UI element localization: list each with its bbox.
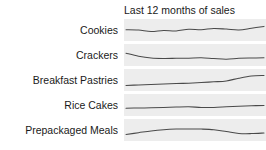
- sparkline-crackers[interactable]: [124, 44, 266, 66]
- row-label-cookies: Cookies: [0, 19, 118, 41]
- table-row: Prepackaged Meals: [0, 119, 266, 141]
- sparkline-table: Last 12 months of sales Cookies Crackers…: [0, 0, 266, 150]
- sparkline-path: [126, 76, 264, 86]
- row-label-breakfast-pastries: Breakfast Pastries: [0, 69, 118, 91]
- sparkline-rice-cakes[interactable]: [124, 94, 266, 116]
- sparkline-cookies[interactable]: [124, 19, 266, 41]
- row-label-prepackaged-meals: Prepackaged Meals: [0, 119, 118, 141]
- sparkline-path: [126, 53, 264, 59]
- sparkline-svg: [124, 69, 266, 91]
- table-row: Cookies: [0, 19, 266, 41]
- sparkline-svg: [124, 44, 266, 66]
- row-label-crackers: Crackers: [0, 44, 118, 66]
- sparkline-prepackaged-meals[interactable]: [124, 119, 266, 141]
- sparkline-breakfast-pastries[interactable]: [124, 69, 266, 91]
- row-label-rice-cakes: Rice Cakes: [0, 94, 118, 116]
- table-row: Rice Cakes: [0, 94, 266, 116]
- sparkline-svg: [124, 94, 266, 116]
- chart-title: Last 12 months of sales: [124, 3, 266, 17]
- sparkline-svg: [124, 19, 266, 41]
- sparkline-path: [126, 129, 264, 135]
- sparkline-path: [126, 105, 264, 108]
- sparkline-path: [126, 26, 264, 31]
- table-row: Crackers: [0, 44, 266, 66]
- sparkline-svg: [124, 119, 266, 141]
- table-row: Breakfast Pastries: [0, 69, 266, 91]
